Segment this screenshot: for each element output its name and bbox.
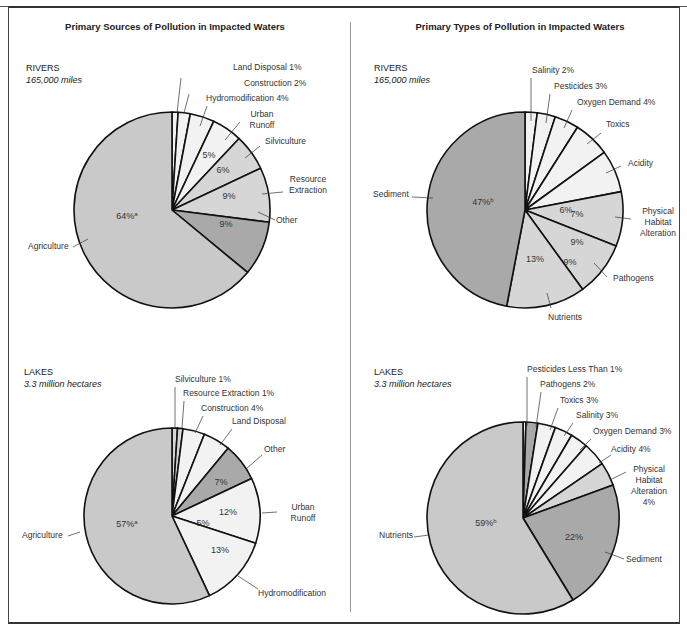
slice-label: Salinity 2%: [532, 65, 574, 75]
slice-label: UrbanRunoff: [250, 109, 276, 130]
pie-charts-canvas: Land Disposal 1%Construction 2%Hydromodi…: [0, 0, 687, 630]
slice-percent: 7%: [214, 477, 227, 487]
pie-lakes-types: Pesticides Less Than 1%Pathogens 2%Toxic…: [379, 364, 672, 614]
pie-rivers-types: Salinity 2%Pesticides 3%Oxygen Demand 4%…: [373, 65, 676, 322]
slice-label: Agriculture: [22, 530, 63, 540]
slice-label: UrbanRunoff: [291, 502, 317, 523]
leader-line: [599, 455, 611, 463]
slice-percent: 9%: [222, 191, 235, 201]
leader-line: [177, 78, 181, 113]
slice-label: Land Disposal: [232, 416, 286, 426]
leader-line: [536, 392, 541, 427]
slice-percent: 9%: [563, 257, 576, 267]
pie-rivers-sources: Land Disposal 1%Construction 2%Hydromodi…: [28, 62, 327, 308]
slice-label: Oxygen Demand 4%: [577, 97, 656, 107]
slice-label: Pesticides 3%: [554, 81, 608, 91]
slice-label: Sediment: [626, 554, 663, 564]
slice-label: Other: [276, 215, 297, 225]
slice-percent: 5%: [196, 518, 209, 528]
leader-line: [220, 429, 232, 445]
slice-label: Construction 4%: [201, 403, 264, 413]
slice-percent: 7%: [570, 209, 583, 219]
leader-line: [182, 401, 184, 428]
leader-line: [414, 535, 429, 537]
slice-label: Nutrients: [379, 530, 413, 540]
slice-label: Pathogens: [613, 273, 654, 283]
slice-percent: 22%: [565, 532, 583, 542]
slice-label: Other: [264, 444, 285, 454]
slice-percent: 13%: [211, 545, 229, 555]
slice-label: Hydromodification 4%: [206, 93, 289, 103]
slice-label: Agriculture: [28, 241, 69, 251]
pie-slice-sediment: [427, 112, 525, 306]
slice-percent: 12%: [219, 507, 237, 517]
slice-label: PhysicalHabitatAlteration: [640, 206, 676, 238]
slice-label: Acidity: [628, 158, 654, 168]
slice-percent: 5%: [202, 150, 215, 160]
leader-line: [184, 94, 189, 113]
slice-label: Land Disposal 1%: [233, 62, 302, 72]
slice-label: Construction 2%: [244, 78, 307, 88]
slice-label: Silviculture: [265, 136, 306, 146]
slice-label: Toxics: [606, 119, 630, 129]
slice-percent: 13%: [526, 254, 544, 264]
slice-label: Pesticides Less Than 1%: [527, 364, 623, 374]
slice-label: Resource Extraction 1%: [183, 388, 275, 398]
slice-label: Salinity 3%: [576, 410, 618, 420]
slice-percent: 9%: [570, 237, 583, 247]
slice-label: ResourceExtraction: [289, 174, 327, 195]
leader-line: [195, 416, 203, 433]
slice-label: Sediment: [373, 189, 410, 199]
leader-line: [68, 532, 80, 536]
leader-line: [246, 455, 262, 469]
slice-label: Nutrients: [548, 312, 582, 322]
slice-percent: 6%: [216, 165, 229, 175]
slice-label: PhysicalHabitatAlteration4%: [631, 464, 667, 507]
leader-line: [610, 472, 626, 480]
slice-label: Toxics 3%: [560, 395, 599, 405]
leader-line: [262, 512, 277, 513]
slice-label: Acidity 4%: [611, 444, 651, 454]
leader-line: [238, 576, 258, 589]
slice-label: Silviculture 1%: [175, 374, 231, 384]
slice-label: Pathogens 2%: [540, 379, 596, 389]
slice-percent: 9%: [219, 219, 232, 229]
slice-label: Hydromodification: [258, 588, 326, 598]
pie-lakes-sources: Silviculture 1%Resource Extraction 1%Con…: [22, 374, 326, 604]
slice-label: Oxygen Demand 3%: [593, 426, 672, 436]
